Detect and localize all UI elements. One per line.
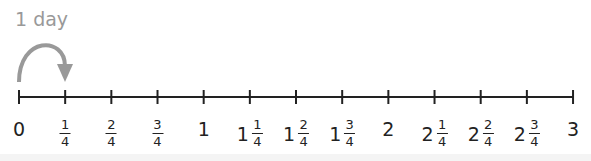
tick-label: 34 (152, 118, 163, 149)
tick-label: 124 (283, 118, 309, 149)
tick-label: 24 (106, 118, 117, 149)
fraction: 14 (60, 118, 71, 149)
denominator: 4 (107, 135, 115, 149)
whole-number: 2 (382, 118, 394, 140)
denominator: 4 (530, 135, 538, 149)
numerator: 2 (484, 118, 492, 132)
whole-number: 0 (13, 118, 25, 140)
numerator: 1 (253, 118, 261, 132)
denominator: 4 (299, 135, 307, 149)
fraction: 14 (252, 118, 263, 149)
tick-label: 0 (13, 118, 25, 140)
fraction: 24 (298, 118, 309, 149)
numerator: 3 (530, 118, 538, 132)
numerator: 3 (153, 118, 161, 132)
fraction: 24 (106, 118, 117, 149)
fraction: 34 (529, 118, 540, 149)
numerator: 1 (438, 118, 446, 132)
denominator: 4 (346, 135, 354, 149)
tick-label: 234 (514, 118, 540, 149)
tick-label: 2 (382, 118, 394, 140)
whole-number: 2 (468, 123, 480, 145)
fraction: 34 (344, 118, 355, 149)
numerator: 2 (107, 118, 115, 132)
denominator: 4 (484, 135, 492, 149)
tick-label: 14 (60, 118, 71, 149)
whole-number: 1 (329, 123, 341, 145)
arrow-head-icon (57, 64, 73, 82)
tick-label: 134 (329, 118, 355, 149)
tick-label: 214 (421, 118, 447, 149)
whole-number: 2 (514, 123, 526, 145)
whole-number: 1 (237, 123, 249, 145)
fraction: 34 (152, 118, 163, 149)
denominator: 4 (438, 135, 446, 149)
tick-label: 114 (237, 118, 263, 149)
tick-label: 1 (198, 118, 210, 140)
denominator: 4 (153, 135, 161, 149)
whole-number: 3 (567, 118, 579, 140)
tick-label: 224 (468, 118, 494, 149)
tick-label: 3 (567, 118, 579, 140)
whole-number: 2 (421, 123, 433, 145)
numerator: 3 (346, 118, 354, 132)
denominator: 4 (61, 135, 69, 149)
denominator: 4 (253, 135, 261, 149)
fraction: 14 (437, 118, 448, 149)
whole-number: 1 (198, 118, 210, 140)
whole-number: 1 (283, 123, 295, 145)
jump-label: 1 day (15, 8, 68, 30)
fraction: 24 (483, 118, 494, 149)
numerator: 1 (61, 118, 69, 132)
jump-arc (19, 45, 65, 82)
numerator: 2 (299, 118, 307, 132)
